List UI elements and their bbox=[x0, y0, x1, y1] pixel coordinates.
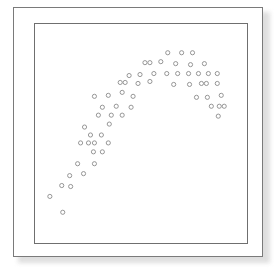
scatter-point bbox=[180, 51, 184, 55]
scatter-plot-svg bbox=[35, 24, 247, 243]
scatter-point bbox=[107, 122, 111, 126]
scatter-point bbox=[148, 61, 152, 65]
scatter-point bbox=[114, 104, 118, 108]
scatter-point bbox=[174, 62, 178, 66]
screenshot-root bbox=[0, 0, 276, 271]
scatter-plot-area bbox=[35, 24, 247, 243]
scatter-point bbox=[204, 81, 208, 85]
scatter-point bbox=[199, 81, 203, 85]
scatter-point bbox=[92, 141, 96, 145]
scatter-point bbox=[76, 162, 80, 166]
scatter-point bbox=[78, 141, 82, 145]
scatter-point bbox=[81, 172, 85, 176]
scatter-point bbox=[143, 61, 147, 65]
scatter-point bbox=[166, 51, 170, 55]
scatter-point bbox=[188, 63, 192, 67]
scatter-point bbox=[60, 183, 64, 187]
scatter-point bbox=[219, 93, 223, 97]
scatter-point bbox=[61, 210, 65, 214]
scatter-point bbox=[148, 79, 152, 83]
scatter-point bbox=[127, 73, 131, 77]
inner-frame-border bbox=[34, 23, 248, 244]
scatter-point bbox=[120, 113, 124, 117]
scatter-point bbox=[82, 125, 86, 129]
scatter-point bbox=[190, 51, 194, 55]
scatter-point bbox=[48, 194, 52, 198]
scatter-point bbox=[131, 94, 135, 98]
scatter-point bbox=[106, 93, 110, 97]
scatter-point bbox=[176, 71, 180, 75]
scatter-point bbox=[86, 141, 90, 145]
scatter-point bbox=[100, 105, 104, 109]
scatter-point bbox=[91, 150, 95, 154]
scatter-point bbox=[215, 81, 219, 85]
scatter-point bbox=[194, 95, 198, 99]
scatter-point bbox=[152, 71, 156, 75]
scatter-point bbox=[187, 82, 191, 86]
scatter-point bbox=[129, 105, 133, 109]
scatter-point bbox=[138, 72, 142, 76]
scatter-point bbox=[196, 71, 200, 75]
scatter-point bbox=[92, 162, 96, 166]
scatter-point bbox=[216, 114, 220, 118]
scatter-point bbox=[69, 184, 73, 188]
scatter-point bbox=[68, 174, 72, 178]
scatter-point bbox=[120, 90, 124, 94]
outer-frame-border bbox=[13, 7, 263, 257]
scatter-point bbox=[206, 71, 210, 75]
scatter-point bbox=[109, 113, 113, 117]
scatter-point bbox=[99, 133, 103, 137]
scatter-point bbox=[136, 81, 140, 85]
scatter-point bbox=[159, 60, 163, 64]
scatter-point bbox=[92, 94, 96, 98]
scatter-point bbox=[205, 95, 209, 99]
scatter-point bbox=[118, 80, 122, 84]
scatter-point bbox=[165, 71, 169, 75]
scatter-point bbox=[222, 104, 226, 108]
scatter-point bbox=[123, 80, 127, 84]
scatter-point bbox=[172, 82, 176, 86]
scatter-point bbox=[186, 71, 190, 75]
scatter-point bbox=[202, 62, 206, 66]
scatter-point bbox=[215, 71, 219, 75]
scatter-point bbox=[209, 104, 213, 108]
scatter-point bbox=[96, 113, 100, 117]
scatter-point bbox=[106, 141, 110, 145]
scatter-markers-group bbox=[48, 51, 227, 215]
scatter-point bbox=[217, 104, 221, 108]
scatter-point bbox=[88, 133, 92, 137]
scatter-point bbox=[100, 150, 104, 154]
